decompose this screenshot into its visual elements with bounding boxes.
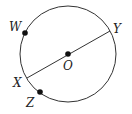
point-o-dot [65,51,71,57]
point-z-dot [37,89,43,95]
label-x: X [12,76,22,90]
label-w: W [9,20,23,34]
label-y: Y [113,22,122,36]
point-w-dot [22,30,28,36]
label-o: O [63,59,73,73]
label-z: Z [25,96,35,110]
circle-diagram: W Y O X Z [0,0,132,114]
